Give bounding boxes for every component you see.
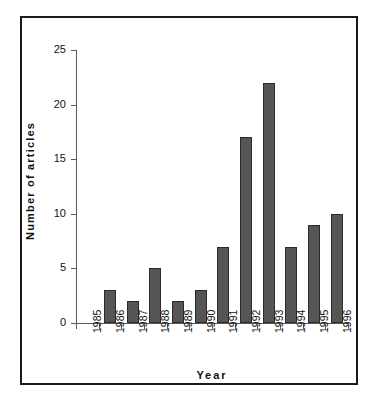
x-tick [76, 323, 77, 329]
y-axis-title: Number of articles [24, 122, 36, 240]
bar-1995 [308, 225, 320, 323]
bar-1986 [104, 290, 116, 323]
bar-1990 [195, 290, 207, 323]
bar-1987 [127, 301, 139, 323]
bar-1992 [240, 137, 252, 323]
y-tick-label: 5 [32, 262, 66, 273]
bar-1996 [331, 214, 343, 323]
bar-1989 [172, 301, 184, 323]
y-tick-label: 25 [32, 44, 66, 55]
bar-1993 [263, 83, 275, 323]
bar-1988 [149, 268, 161, 323]
y-tick-label: 20 [32, 99, 66, 110]
bar-1994 [285, 247, 297, 323]
plot-area [76, 50, 348, 323]
y-tick-label: 15 [32, 153, 66, 164]
x-axis-title: Year [76, 369, 348, 381]
bar-1991 [217, 247, 229, 323]
y-tick-label: 10 [32, 208, 66, 219]
y-tick-label: 0 [32, 317, 66, 328]
